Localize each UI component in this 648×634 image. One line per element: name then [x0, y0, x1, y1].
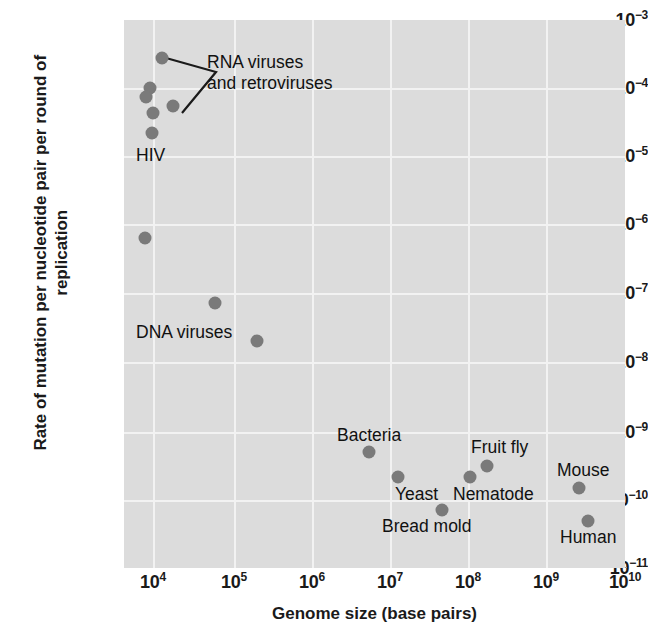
- annotation-rna-viruses-line1: RNA viruses: [207, 52, 303, 72]
- annotation-fruit-fly: Fruit fly: [471, 437, 528, 458]
- annotation-rna-viruses-line2: and retroviruses: [207, 73, 332, 93]
- annotation-bread-mold: Bread mold: [382, 516, 472, 537]
- data-point-yeast: [392, 471, 405, 484]
- x-tick-label: 108: [455, 573, 481, 591]
- data-point-human: [582, 515, 595, 528]
- annotation-human: Human: [560, 527, 616, 548]
- data-point-dna-virus-2: [251, 335, 264, 348]
- mutation-rate-vs-genome-size-chart: Rate of mutation per nucleotide pair per…: [0, 0, 648, 634]
- x-tick-label: 105: [221, 573, 247, 591]
- gridline-horizontal: [124, 156, 625, 158]
- annotation-hiv: HIV: [136, 145, 165, 166]
- gridline-horizontal: [124, 293, 625, 295]
- data-point-mouse: [573, 482, 586, 495]
- gridline-horizontal: [124, 224, 625, 226]
- y-axis-title: Rate of mutation per nucleotide pair per…: [31, 53, 72, 453]
- annotation-nematode: Nematode: [453, 484, 534, 505]
- data-point-dna-virus-1: [209, 297, 222, 310]
- x-tick-label: 107: [377, 573, 403, 591]
- x-tick-label: 1010: [609, 573, 641, 591]
- x-tick-label: 104: [140, 573, 166, 591]
- data-point-hiv: [146, 127, 159, 140]
- annotation-mouse: Mouse: [557, 460, 610, 481]
- x-tick-label: 109: [533, 573, 559, 591]
- annotation-yeast: Yeast: [395, 484, 438, 505]
- annotation-rna-viruses: RNA viruses and retroviruses: [207, 52, 332, 94]
- data-point-bacteria: [363, 446, 376, 459]
- data-point-nematode: [464, 471, 477, 484]
- x-axis-title: Genome size (base pairs): [124, 605, 625, 622]
- plot-area: [124, 20, 625, 568]
- data-point-rna-virus-3: [140, 91, 153, 104]
- data-point-fruit-fly: [481, 460, 494, 473]
- gridline-horizontal: [124, 88, 625, 90]
- data-point-rna-virus-4: [147, 107, 160, 120]
- data-point-bread-mold: [436, 504, 449, 517]
- gridline-horizontal: [124, 500, 625, 502]
- x-tick-label: 106: [299, 573, 325, 591]
- annotation-bacteria: Bacteria: [337, 425, 401, 446]
- data-point-rna-virus-1: [156, 52, 169, 65]
- annotation-dna-viruses: DNA viruses: [136, 322, 232, 343]
- gridline-horizontal: [124, 362, 625, 364]
- data-point-unlabeled-virus: [139, 232, 152, 245]
- data-point-rna-virus-5: [167, 100, 180, 113]
